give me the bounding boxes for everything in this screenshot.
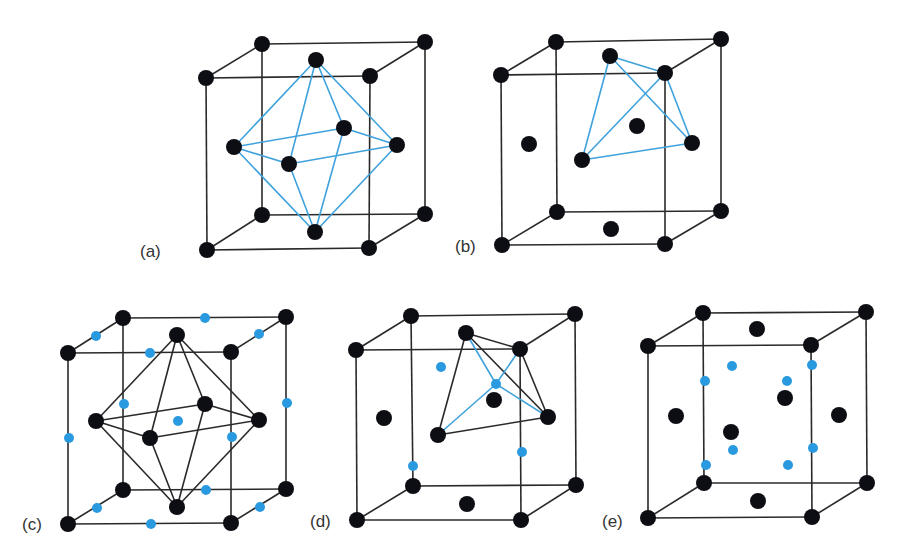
cube-edge xyxy=(648,483,704,518)
interstitial-site xyxy=(227,432,237,442)
cube-edge xyxy=(520,314,575,349)
atom xyxy=(803,337,819,353)
atom xyxy=(540,409,556,425)
atom xyxy=(223,344,239,360)
cube-edge xyxy=(502,212,557,245)
interstitial-site xyxy=(491,379,501,389)
atom xyxy=(197,396,213,412)
interstitial-sites xyxy=(408,362,527,471)
atom xyxy=(349,512,365,528)
interstitial-site xyxy=(728,445,738,455)
polyhedron-edge-blue xyxy=(289,164,315,232)
atom xyxy=(417,206,433,222)
panel-e-fcc-tetrahedral-sites: (e) xyxy=(602,304,875,531)
atom xyxy=(750,493,766,509)
atom xyxy=(60,345,76,361)
interstitial-site xyxy=(146,519,156,529)
atom xyxy=(308,52,324,68)
interstitial-site xyxy=(119,399,129,409)
interstitial-site xyxy=(727,361,737,371)
atom xyxy=(567,306,583,322)
interstitial-site xyxy=(173,416,183,426)
cube-edge xyxy=(206,78,207,250)
atom xyxy=(307,224,323,240)
atom xyxy=(223,515,239,531)
interstitial-site xyxy=(92,503,102,513)
polyhedron-edge xyxy=(150,420,259,438)
panel-label: (c) xyxy=(22,515,42,534)
atom xyxy=(603,221,619,237)
cube-edge xyxy=(413,485,576,486)
polyhedron-edge xyxy=(150,438,177,507)
polyhedron-edge xyxy=(96,335,177,421)
panel-a-fcc-octahedral: (a) xyxy=(140,34,433,261)
atom xyxy=(521,136,537,152)
atom xyxy=(549,204,565,220)
polyhedron-edge xyxy=(520,349,548,417)
atom xyxy=(115,310,131,326)
cube-edge xyxy=(557,211,721,212)
polyhedron-edge xyxy=(438,333,466,435)
polyhedron-edge-blue xyxy=(234,128,344,147)
cube-edge xyxy=(648,517,812,518)
atom xyxy=(859,475,875,491)
atom xyxy=(831,407,847,423)
atom xyxy=(458,325,474,341)
interstitial-site xyxy=(408,461,418,471)
atom xyxy=(115,482,131,498)
atom xyxy=(348,342,364,358)
panel-b-fcc-tetrahedral: (b) xyxy=(455,31,729,256)
atom xyxy=(494,237,510,253)
atom xyxy=(696,475,712,491)
atom xyxy=(574,152,590,168)
atom xyxy=(749,321,765,337)
interstitial-sites xyxy=(700,360,818,470)
atom xyxy=(568,477,584,493)
atom xyxy=(657,65,673,81)
atom xyxy=(602,48,618,64)
atom xyxy=(281,156,297,172)
atom xyxy=(169,327,185,343)
crystal-interstitial-figure: (a) (b) (c) (d) (e) xyxy=(0,0,907,558)
atom xyxy=(142,430,158,446)
atom xyxy=(226,139,242,155)
cube-edge xyxy=(703,313,704,483)
atom xyxy=(640,338,656,354)
panel-label: (d) xyxy=(310,512,331,531)
atom xyxy=(777,390,793,406)
interstitial-site xyxy=(282,398,292,408)
blue-bonds xyxy=(582,56,692,160)
cube-edge xyxy=(357,486,413,520)
cube-edge xyxy=(648,313,703,346)
polyhedron-edge-blue xyxy=(316,60,344,128)
cube-edge xyxy=(648,345,811,346)
interstitial-site xyxy=(808,443,818,453)
atom xyxy=(389,137,405,153)
atom xyxy=(405,478,421,494)
interstitial-site xyxy=(436,362,446,372)
panel-d-fcc-tetrahedral-site: (d) xyxy=(310,306,584,531)
panel-label: (e) xyxy=(602,512,623,531)
atom xyxy=(403,308,419,324)
atom xyxy=(254,207,270,223)
panel-label: (b) xyxy=(455,237,476,256)
polyhedron-edge xyxy=(96,404,205,421)
interstitial-site xyxy=(701,460,711,470)
interstitial-site xyxy=(200,313,210,323)
atom xyxy=(512,341,528,357)
polyhedron-edge-blue xyxy=(234,60,316,147)
polyhedron-edge-blue xyxy=(582,143,692,160)
cube-edge xyxy=(369,214,425,248)
cube-edge xyxy=(811,312,866,345)
interstitial-site xyxy=(700,376,710,386)
atom xyxy=(713,203,729,219)
atom xyxy=(713,31,729,47)
atom xyxy=(362,68,378,84)
atom xyxy=(254,36,270,52)
atom xyxy=(88,413,104,429)
interstitial-site xyxy=(201,485,211,495)
cube-edge xyxy=(207,248,369,250)
cube-edge xyxy=(520,349,521,520)
cube-edge xyxy=(206,44,262,78)
cube-edge xyxy=(369,76,370,248)
